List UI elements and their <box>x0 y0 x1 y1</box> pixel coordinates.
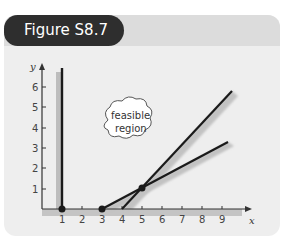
x-axis-label: x <box>249 215 255 226</box>
svg-text:6: 6 <box>32 82 38 93</box>
annotation-line-2: region <box>115 123 147 134</box>
constraint-shading-shallow <box>102 142 234 212</box>
chart: x y 1 2 3 4 5 6 7 8 9 1 2 3 4 5 6 feasib… <box>0 0 291 243</box>
svg-text:2: 2 <box>79 214 85 225</box>
y-axis-arrow-icon <box>39 63 45 70</box>
svg-text:6: 6 <box>159 214 165 225</box>
svg-text:7: 7 <box>179 214 185 225</box>
point-1-0 <box>59 206 66 213</box>
svg-text:3: 3 <box>32 143 38 154</box>
point-5-1 <box>139 185 146 192</box>
line-shallow <box>102 142 228 209</box>
svg-text:4: 4 <box>32 123 38 134</box>
svg-text:8: 8 <box>199 214 205 225</box>
svg-text:2: 2 <box>32 163 38 174</box>
svg-text:5: 5 <box>32 102 38 113</box>
annotation-line-1: feasible <box>111 110 150 121</box>
point-3-0 <box>99 206 106 213</box>
y-axis-label: y <box>29 61 36 72</box>
svg-text:5: 5 <box>139 214 145 225</box>
svg-text:4: 4 <box>119 214 125 225</box>
svg-text:1: 1 <box>32 184 38 195</box>
y-ticks: 1 2 3 4 5 6 <box>32 82 46 195</box>
x-axis-arrow-icon <box>245 206 252 212</box>
svg-text:1: 1 <box>59 214 65 225</box>
svg-text:9: 9 <box>219 214 225 225</box>
svg-text:3: 3 <box>99 214 105 225</box>
